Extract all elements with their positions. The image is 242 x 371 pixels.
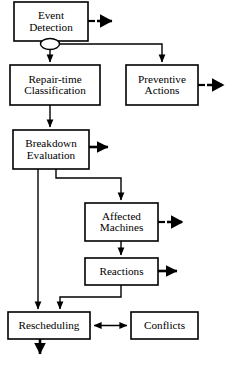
node-box-repair-time-classification[interactable] — [10, 65, 100, 105]
flowchart-canvas: Event Detection Repair-time Classificati… — [0, 0, 242, 371]
connector-breakdown-evaluation-to-affected-machines — [56, 169, 121, 200]
node-box-event-detection[interactable] — [14, 2, 88, 41]
node-box-conflicts[interactable] — [131, 312, 198, 339]
connector-reactions-to-rescheduling — [60, 285, 121, 309]
connector-event-detection-branch-right — [60, 44, 163, 62]
node-box-breakdown-evaluation[interactable] — [13, 130, 89, 169]
node-box-reactions[interactable] — [85, 258, 158, 285]
node-box-rescheduling[interactable] — [8, 312, 90, 339]
line-hop-ellipse — [41, 39, 60, 50]
flowchart-svg — [0, 0, 242, 371]
node-box-preventive-actions[interactable] — [126, 65, 198, 105]
node-box-affected-machines[interactable] — [85, 203, 158, 241]
